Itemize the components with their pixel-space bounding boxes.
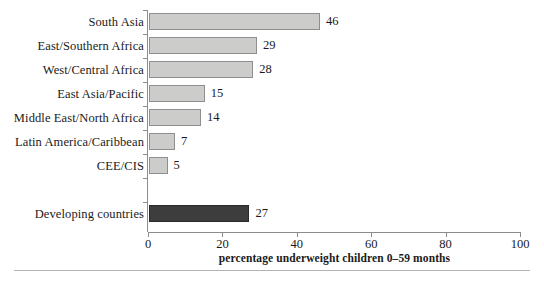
x-axis-tick-label: 0 — [128, 237, 168, 252]
x-axis-tick-label: 20 — [202, 237, 242, 252]
bar — [149, 109, 201, 126]
bar — [149, 157, 168, 174]
bar-category-label: East Asia/Pacific — [57, 82, 144, 106]
bar — [149, 37, 257, 54]
category-tick — [143, 178, 148, 179]
bar-category-label: Middle East/North Africa — [14, 106, 144, 130]
bar-category-label: South Asia — [88, 10, 144, 34]
x-axis-title: percentage underweight children 0–59 mon… — [148, 252, 521, 264]
bar-category-label: East/Southern Africa — [38, 34, 145, 58]
bar-value-label: 46 — [326, 10, 339, 34]
underweight-children-bar-chart: South Asia46East/Southern Africa29West/C… — [0, 0, 544, 281]
x-axis-tick-label: 40 — [277, 237, 317, 252]
x-axis-tick-label: 60 — [351, 237, 391, 252]
bar-category-label: Developing countries — [35, 202, 144, 226]
bar-value-label: 7 — [181, 130, 187, 154]
value-axis-line — [148, 232, 521, 233]
bar-value-label: 29 — [263, 34, 276, 58]
bar-category-label: West/Central Africa — [43, 58, 144, 82]
x-axis-tick-label: 80 — [426, 237, 466, 252]
plot-area: South Asia46East/Southern Africa29West/C… — [148, 10, 520, 232]
bar-category-label: CEE/CIS — [97, 154, 144, 178]
bar-value-label: 28 — [259, 58, 272, 82]
x-axis-tick-label: 100 — [500, 237, 540, 252]
bar — [149, 133, 175, 150]
bar-value-label: 15 — [211, 82, 224, 106]
bar-value-label: 5 — [174, 154, 180, 178]
bar — [149, 205, 249, 222]
bar-value-label: 27 — [255, 202, 268, 226]
bar — [149, 85, 205, 102]
bar — [149, 61, 253, 78]
bar-value-label: 14 — [207, 106, 220, 130]
bar — [149, 13, 320, 30]
footer-divider-rule — [14, 270, 530, 271]
bar-category-label: Latin America/Caribbean — [15, 130, 144, 154]
